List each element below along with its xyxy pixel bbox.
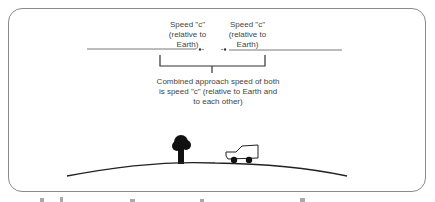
hill-ground [67,163,347,176]
diagram-graphics [0,0,435,202]
right-beam-line [221,48,342,50]
car-icon [226,145,258,163]
brace [160,55,265,73]
tree-icon [172,135,191,164]
left-beam-line [87,48,204,50]
cropped-caption-fragment [0,197,435,202]
